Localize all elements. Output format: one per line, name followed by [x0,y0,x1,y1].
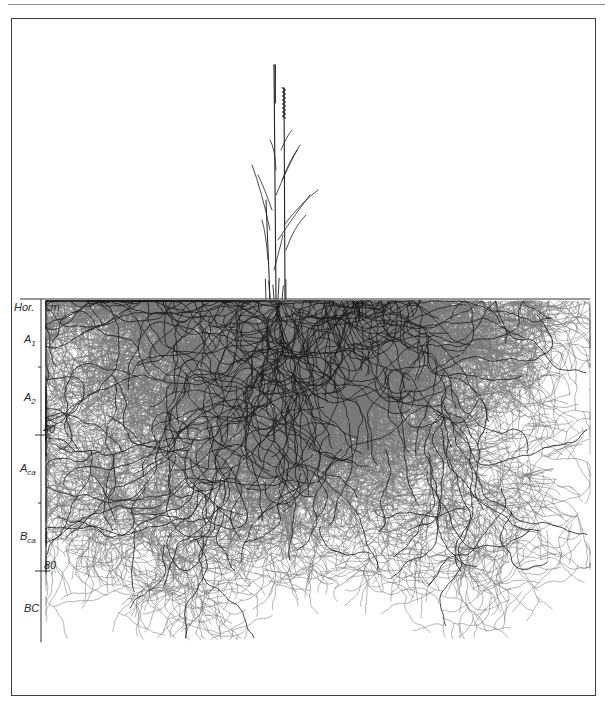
horizon-subscript: 2 [31,397,35,406]
horizon-subscript: ca [27,468,35,477]
depth-tick-label-80: 80 [44,560,56,571]
depth-tick-label-40: 40 [43,424,55,435]
depth-unit-label: cm [45,302,60,313]
horizon-subscript: ca [27,536,35,545]
grass-plant [252,65,318,299]
horizon-label-a1: A1 [24,334,36,348]
horizon-label-aca: Aca [20,463,36,477]
horizon-header-label: Hor. [14,302,34,313]
horizon-name: BC [24,602,39,614]
root-system-drawing [0,0,609,710]
horizon-label-bc: BC [24,603,39,614]
horizon-label-a2: A2 [24,392,36,406]
horizon-label-bca: Bca [20,531,36,545]
horizon-subscript: 1 [31,339,35,348]
